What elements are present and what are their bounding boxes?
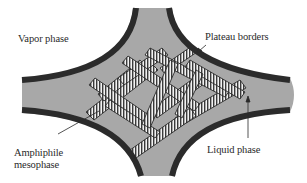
plateau-borders-label: Plateau borders bbox=[205, 31, 269, 43]
amphiphile-mesophase-label-line1: Amphiphile bbox=[14, 147, 63, 159]
vapor-phase-label: Vapor phase bbox=[18, 33, 69, 45]
foam-junction-diagram: Vapor phase Plateau borders Liquid phase… bbox=[0, 0, 307, 183]
liquid-phase-label: Liquid phase bbox=[207, 144, 260, 156]
amphiphile-mesophase-label-line2: mesophase bbox=[14, 159, 59, 171]
